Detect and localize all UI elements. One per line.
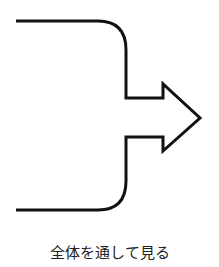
bracket-arrow-icon bbox=[16, 21, 200, 210]
bracket-arrow-diagram bbox=[0, 0, 219, 267]
diagram-caption: 全体を通して見る bbox=[0, 241, 219, 262]
